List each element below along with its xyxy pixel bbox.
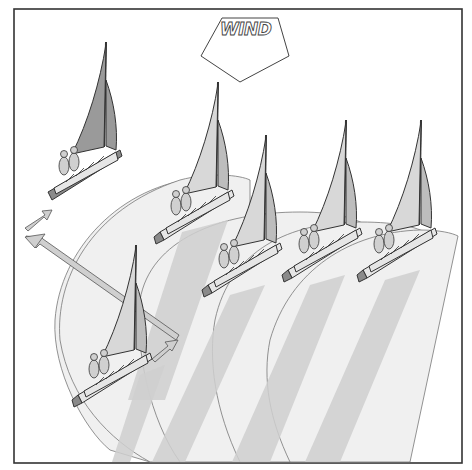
wind-direction-arrow: WIND [201, 18, 289, 82]
wind-label: WIND [220, 19, 272, 39]
wind-shadow-diagram: Wind shadow diagram WIND [0, 0, 472, 470]
sailboat-top-left [48, 42, 122, 200]
course-arrow-upper [25, 210, 52, 231]
